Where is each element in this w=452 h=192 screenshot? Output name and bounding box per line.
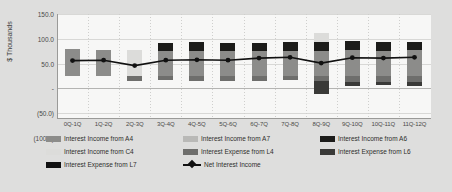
net-interest-income-marker — [350, 55, 355, 60]
legend-label: Interest Expense from L4 — [201, 147, 274, 156]
legend-item[interactable]: Interest Income from A4 — [46, 132, 133, 145]
legend-label: Net Interest Income — [204, 160, 261, 169]
net-interest-income-marker — [288, 55, 293, 60]
legend-item[interactable]: Interest Income from A7 — [183, 132, 270, 145]
legend-line-marker-icon — [183, 161, 201, 168]
y-tick-100: 100.0 — [4, 36, 54, 43]
y-tick-neg50: (50.0) — [4, 110, 54, 117]
legend-row: Interest Expense from L7Net Interest Inc… — [46, 158, 446, 171]
net-interest-income-marker — [412, 55, 417, 60]
legend-label: Interest Income from A4 — [64, 134, 133, 143]
legend-swatch — [320, 149, 335, 155]
legend-swatch — [183, 136, 198, 142]
legend-swatch — [320, 136, 335, 142]
net-interest-income-polyline — [73, 57, 415, 65]
y-tick-50: 50.0 — [4, 61, 54, 68]
net-interest-income-marker — [163, 58, 168, 63]
net-interest-income-marker — [195, 57, 200, 62]
legend-item[interactable]: Interest Expense from L6 — [320, 145, 411, 158]
legend-label: Interest Income from A7 — [201, 134, 270, 143]
legend-label: Interest Expense from L6 — [338, 147, 411, 156]
chart-legend: Interest Income from A4Interest Income f… — [46, 132, 446, 171]
legend-label: Interest Income from A6 — [338, 134, 407, 143]
legend-item[interactable]: Net Interest Income — [183, 158, 261, 171]
legend-swatch — [46, 136, 61, 142]
legend-swatch — [183, 149, 198, 155]
y-tick-150: 150.0 — [4, 11, 54, 18]
x-tick-label: 11Q-12Q — [394, 120, 434, 128]
legend-swatch — [46, 162, 61, 168]
legend-item[interactable]: Interest Income from C4 — [46, 145, 134, 158]
legend-label: Interest Income from C4 — [64, 147, 134, 156]
legend-row: Interest Income from A4Interest Income f… — [46, 132, 446, 145]
interest-income-expense-chart: $ Thousands 150.0 100.0 50.0 - (50.0) (1… — [0, 0, 452, 192]
net-interest-income-marker — [132, 63, 137, 68]
y-tick-zero: - — [4, 85, 54, 92]
net-interest-income-marker — [319, 61, 324, 66]
legend-swatch — [46, 149, 61, 155]
legend-item[interactable]: Interest Income from A6 — [320, 132, 407, 145]
legend-row: Interest Income from C4Interest Expense … — [46, 145, 446, 158]
legend-item[interactable]: Interest Expense from L4 — [183, 145, 274, 158]
net-interest-income-line — [57, 14, 430, 118]
net-interest-income-marker — [381, 56, 386, 61]
legend-item[interactable]: Interest Expense from L7 — [46, 158, 137, 171]
net-interest-income-marker — [257, 56, 262, 61]
net-interest-income-marker — [70, 58, 75, 63]
net-interest-income-marker — [101, 58, 106, 63]
net-interest-income-marker — [226, 58, 231, 63]
legend-label: Interest Expense from L7 — [64, 160, 137, 169]
